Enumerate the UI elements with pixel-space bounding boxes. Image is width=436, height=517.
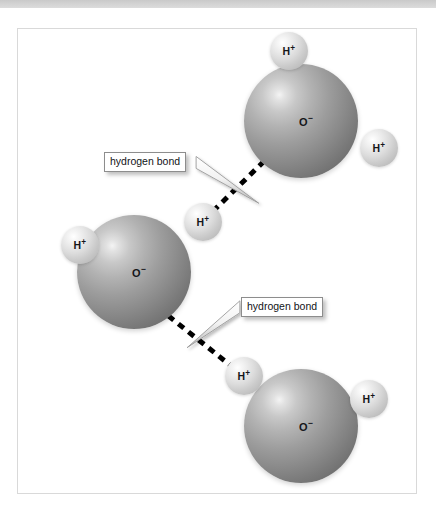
hydrogen-atom-label: H+ xyxy=(197,217,210,228)
hydrogen-atom-label: H+ xyxy=(238,371,251,382)
callout-pointer xyxy=(196,156,259,203)
callout-pointer xyxy=(187,301,240,348)
hydrogen-bond-callout-label: hydrogen bond xyxy=(104,152,186,172)
figure-frame: O−H+H+O−H+H+O−H+H+ hydrogen bondhydrogen… xyxy=(17,28,417,494)
oxygen-atom-label: O− xyxy=(299,117,313,128)
hydrogen-atom-label: H+ xyxy=(74,240,87,251)
hydrogen-bond-line xyxy=(213,162,263,211)
hydrogen-atom-label: H+ xyxy=(373,143,386,154)
callout-pointer-layer xyxy=(187,156,259,347)
oxygen-atom-label: O− xyxy=(299,422,313,433)
hydrogen-atom-label: H+ xyxy=(283,46,296,57)
hydrogen-atom-label: H+ xyxy=(363,394,376,405)
hydrogen-bond-callout-label: hydrogen bond xyxy=(241,297,323,317)
top-gray-bar xyxy=(0,0,436,8)
oxygen-atom-label: O− xyxy=(132,268,146,279)
